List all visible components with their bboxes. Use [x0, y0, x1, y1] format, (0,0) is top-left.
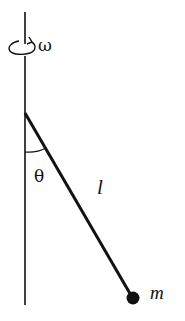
- theta-label: θ: [34, 168, 44, 185]
- mass-label: m: [150, 283, 164, 302]
- pendulum-rod: [25, 113, 132, 297]
- rotation-arrow-icon: [9, 37, 35, 54]
- omega-label: ω: [38, 37, 52, 54]
- diagram-graphics: [0, 0, 185, 321]
- pendulum-diagram: ω θ l m: [0, 0, 185, 321]
- pendulum-bob: [127, 292, 140, 305]
- angle-arc: [25, 148, 46, 152]
- length-label: l: [97, 177, 103, 198]
